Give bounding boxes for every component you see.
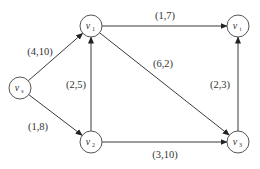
node-subscript: 1: [92, 26, 95, 32]
edge-label-v2-v1: (2,5): [66, 79, 87, 91]
node-subscript: 3: [239, 142, 242, 148]
node-circle: [80, 15, 102, 37]
node-vs: vs: [9, 77, 31, 99]
flow-network-diagram: (4,10)(1,7)(6,2)(2,5)(1,8)(2,3)(3,10) vs…: [0, 0, 260, 169]
node-circle: [227, 131, 249, 153]
node-label: v: [86, 136, 91, 147]
node-vt: vt: [227, 15, 249, 37]
edge-label-vs-v2: (1,8): [28, 121, 49, 133]
node-v1: v1: [80, 15, 102, 37]
edge-label-v1-vt: (1,7): [155, 10, 176, 22]
node-label: v: [86, 20, 91, 31]
node-circle: [9, 77, 31, 99]
edge-label-v2-v3: (3,10): [152, 149, 178, 161]
node-v2: v2: [80, 131, 102, 153]
node-subscript: 2: [92, 142, 95, 148]
edge-vs-v1: [28, 33, 82, 81]
node-circle: [227, 15, 249, 37]
node-label: v: [15, 82, 20, 93]
node-label: v: [233, 20, 238, 31]
node-v3: v3: [227, 131, 249, 153]
node-label: v: [233, 136, 238, 147]
node-circle: [80, 131, 102, 153]
edge-label-vs-v1: (4,10): [27, 46, 53, 58]
edge-label-v1-v3: (6,2): [153, 58, 174, 70]
edge-label-v3-vt: (2,3): [210, 79, 231, 91]
